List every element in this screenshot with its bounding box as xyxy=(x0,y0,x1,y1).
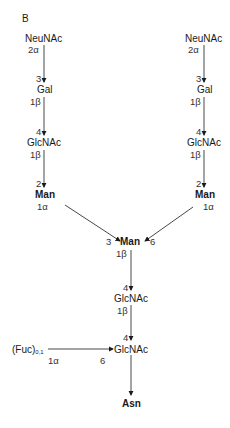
left-neunac-link: 2α xyxy=(28,44,39,55)
left-gal: Gal xyxy=(37,84,53,95)
core-glcnac1-link: 1β xyxy=(117,305,128,316)
left-glcnac-position: 4 xyxy=(36,126,41,137)
left-man-link: 1α xyxy=(37,201,48,212)
fucose: (Fuc)0,1 xyxy=(12,344,44,358)
linkage-arrows xyxy=(0,0,230,428)
panel-label: B xyxy=(22,13,29,24)
left-neunac: NeuNAc xyxy=(25,33,62,44)
core-glcnac1: GlcNAc xyxy=(114,293,148,304)
right-glcnac-position: 4 xyxy=(196,126,201,137)
fucose-subscript: 0,1 xyxy=(35,349,43,355)
right-glcnac: GlcNAc xyxy=(187,137,221,148)
core-glcnac2-position: 4 xyxy=(123,332,128,343)
fucose-link: 1α xyxy=(48,355,59,366)
left-glcnac: GlcNAc xyxy=(27,137,61,148)
core-man-position-3: 3 xyxy=(106,236,111,247)
core-man: Man xyxy=(120,236,140,247)
asparagine: Asn xyxy=(122,398,141,409)
right-neunac: NeuNAc xyxy=(185,33,222,44)
core-glcnac2-position-6: 6 xyxy=(100,355,105,366)
core-man-link: 1β xyxy=(116,248,127,259)
left-man: Man xyxy=(35,189,55,200)
right-gal-position: 3 xyxy=(196,73,201,84)
core-man-position-6: 6 xyxy=(150,236,155,247)
right-man-position: 2 xyxy=(196,178,201,189)
right-man-link: 1α xyxy=(203,201,214,212)
left-gal-link: 1β xyxy=(30,96,41,107)
right-man: Man xyxy=(195,189,215,200)
right-gal-link: 1β xyxy=(190,96,201,107)
core-glcnac1-position: 4 xyxy=(123,282,128,293)
right-neunac-link: 2α xyxy=(188,44,199,55)
core-glcnac2: GlcNAc xyxy=(114,344,148,355)
right-glcnac-link: 1β xyxy=(190,149,201,160)
right-gal: Gal xyxy=(197,84,213,95)
left-glcnac-link: 1β xyxy=(30,149,41,160)
left-gal-position: 3 xyxy=(36,73,41,84)
left-man-position: 2 xyxy=(36,178,41,189)
